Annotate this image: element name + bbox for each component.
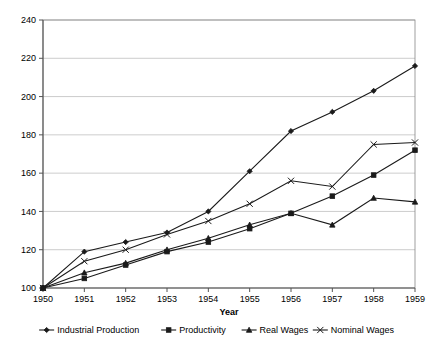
y-tick-label: 140 — [21, 207, 36, 217]
y-tick-label: 100 — [21, 283, 36, 293]
legend-item-real-wages[interactable]: Real Wages — [242, 325, 309, 335]
x-tick-label: 1957 — [322, 294, 342, 304]
x-tick-label: 1950 — [33, 294, 53, 304]
x-tick-label: 1951 — [74, 294, 94, 304]
legend-item-industrial-production[interactable]: Industrial Production — [39, 325, 139, 335]
marker-diamond-0-8 — [371, 88, 376, 93]
legend-label: Productivity — [179, 325, 226, 335]
x-axis: 1950195119521953195419551956195719581959… — [33, 288, 425, 317]
series-real-wages — [40, 195, 417, 290]
y-tick-label: 120 — [21, 245, 36, 255]
y-tick-label: 160 — [21, 168, 36, 178]
x-axis-title: Year — [219, 307, 239, 317]
y-tick-label: 220 — [21, 53, 36, 63]
marker-square-legend-1 — [166, 328, 171, 333]
y-tick-label: 200 — [21, 92, 36, 102]
x-tick-label: 1954 — [198, 294, 218, 304]
marker-square-1-1 — [82, 276, 87, 281]
marker-square-1-7 — [330, 194, 335, 199]
marker-square-1-8 — [371, 173, 376, 178]
gridlines — [43, 20, 415, 250]
legend-label: Nominal Wages — [331, 325, 395, 335]
x-tick-label: 1958 — [364, 294, 384, 304]
marker-x-3-4 — [205, 218, 211, 224]
x-tick-label: 1956 — [281, 294, 301, 304]
y-tick-label: 240 — [21, 15, 36, 25]
marker-diamond-0-2 — [123, 239, 128, 244]
y-axis: 100120140160180200220240 — [21, 15, 43, 293]
chart-canvas: 1001201401601802002202401950195119521953… — [0, 0, 430, 348]
legend: Industrial ProductionProductivityReal Wa… — [39, 325, 394, 335]
legend-label: Industrial Production — [57, 325, 139, 335]
y-tick-label: 180 — [21, 130, 36, 140]
series-line — [43, 150, 415, 288]
marker-diamond-0-9 — [412, 63, 417, 68]
x-tick-label: 1953 — [157, 294, 177, 304]
series-industrial-production — [40, 63, 417, 290]
x-tick-label: 1952 — [116, 294, 136, 304]
line-chart: 1001201401601802002202401950195119521953… — [0, 0, 430, 348]
series-line — [43, 66, 415, 288]
legend-item-productivity[interactable]: Productivity — [161, 325, 226, 335]
marker-square-1-9 — [413, 148, 418, 153]
x-tick-label: 1955 — [240, 294, 260, 304]
series-nominal-wages — [40, 139, 418, 291]
marker-diamond-legend-0 — [44, 327, 49, 332]
marker-x-3-1 — [81, 258, 87, 264]
legend-label: Real Wages — [260, 325, 309, 335]
series-line — [43, 143, 415, 288]
series-productivity — [41, 148, 418, 290]
legend-item-nominal-wages[interactable]: Nominal Wages — [313, 325, 395, 335]
x-tick-label: 1959 — [405, 294, 425, 304]
marker-x-3-5 — [247, 201, 253, 207]
marker-diamond-0-7 — [330, 109, 335, 114]
